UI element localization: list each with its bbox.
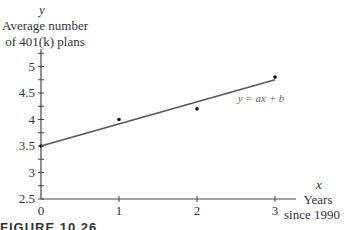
x-axis-variable: x [312,177,326,192]
fit-line [41,80,275,146]
line-equation-label: y = ax + b [226,91,296,106]
x-axis-title-line1: Years [290,192,346,207]
y-tick-label: 3.5 [0,138,35,153]
data-point [195,107,199,111]
y-tick-label: 2.5 [0,191,35,206]
data-point [273,75,277,79]
figure-caption: FIGURE 10.26 [0,220,97,230]
x-axis-title-line2: since 1990 [278,207,346,222]
y-tick-label: 5 [0,59,35,74]
y-axis-variable: y [36,2,48,17]
x-tick-label: 3 [265,203,285,218]
data-point [117,118,121,122]
y-axis-title-line1: Average number [0,18,90,33]
x-tick-label: 0 [31,203,51,218]
y-axis-title-line2: of 401(k) plans [0,34,90,49]
x-tick-label: 1 [109,203,129,218]
y-tick-label: 4.5 [0,85,35,100]
y-tick-label: 3 [0,165,35,180]
x-tick-label: 2 [187,203,207,218]
y-tick-label: 4 [0,112,35,127]
